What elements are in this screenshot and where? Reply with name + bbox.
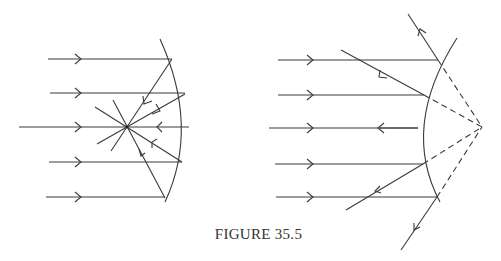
reflected-ray-1 bbox=[408, 14, 438, 60]
concave-mirror bbox=[160, 39, 181, 202]
reflected-ray-1 bbox=[111, 59, 172, 151]
reflected-ray-2 bbox=[341, 50, 424, 95]
figure-caption: FIGURE 35.5 bbox=[0, 226, 501, 243]
arrow-reflected-icon bbox=[375, 29, 426, 230]
reflected-ray-4 bbox=[346, 164, 423, 210]
caption-text: FIGURE 35.5 bbox=[215, 226, 302, 242]
convex-mirror-panel bbox=[269, 14, 482, 250]
concave-mirror-panel bbox=[19, 39, 189, 202]
reflected-ray-4 bbox=[95, 107, 182, 162]
figure-diagram bbox=[0, 0, 501, 261]
focal-point bbox=[126, 126, 129, 129]
virtual-rays bbox=[423, 60, 482, 197]
arrow-right-icon bbox=[75, 54, 81, 202]
